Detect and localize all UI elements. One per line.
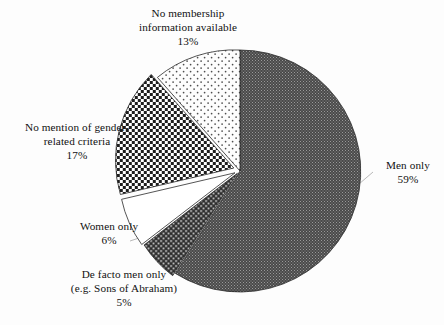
label-percent: 5% bbox=[20, 295, 228, 309]
slice-label-men-only: Men only 59% bbox=[374, 158, 442, 186]
slice-label-women-only: Women only 6% bbox=[38, 219, 180, 247]
label-text-line1: De facto men only bbox=[20, 267, 228, 281]
label-percent: 17% bbox=[2, 148, 152, 162]
label-text-line1: No mention of gender- bbox=[2, 120, 152, 134]
label-text-line2: (e.g. Sons of Abraham) bbox=[20, 281, 228, 295]
label-text-line1: Men only bbox=[374, 158, 442, 172]
label-text-line1: No membership bbox=[112, 6, 264, 20]
slice-label-no-membership-info: No membership information available 13% bbox=[112, 6, 264, 49]
label-percent: 59% bbox=[374, 172, 442, 186]
label-text-line1: Women only bbox=[38, 219, 180, 233]
pie-chart-figure: No membership information available 13% … bbox=[0, 0, 444, 325]
label-percent: 6% bbox=[38, 233, 180, 247]
slice-label-no-mention-gender: No mention of gender- related criteria 1… bbox=[2, 120, 152, 163]
label-percent: 13% bbox=[112, 34, 264, 48]
label-text-line2: information available bbox=[112, 20, 264, 34]
slice-label-de-facto-men-only: De facto men only (e.g. Sons of Abraham)… bbox=[20, 267, 228, 310]
pie-slices bbox=[115, 50, 360, 292]
label-text-line2: related criteria bbox=[2, 134, 152, 148]
